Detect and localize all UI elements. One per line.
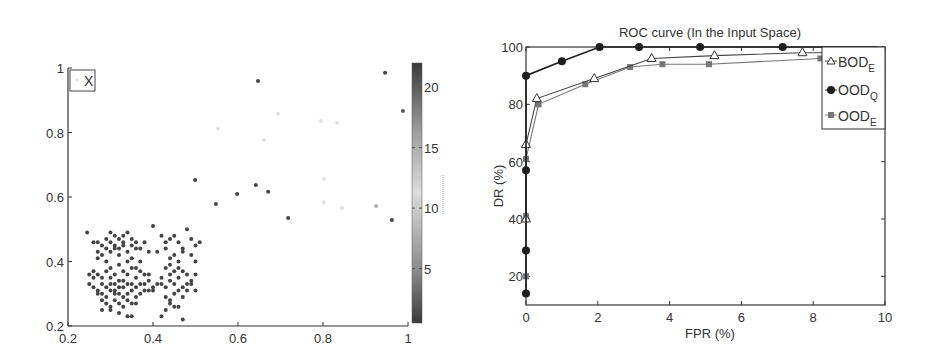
y-tick-label: 0.8: [46, 126, 64, 141]
scatter-point: [177, 266, 181, 270]
legend-marker-x: [76, 79, 78, 81]
scatter-point: [168, 256, 172, 260]
scatter-point: [109, 240, 113, 244]
scatter-point: [109, 289, 113, 293]
scatter-point: [164, 285, 168, 289]
scatter-point: [104, 247, 108, 251]
data-point: [558, 57, 566, 65]
scatter-point: [194, 272, 198, 276]
scatter-point: [134, 276, 138, 280]
scatter-point: [177, 276, 181, 280]
scatter-point: [138, 260, 142, 264]
scatter-point: [335, 121, 339, 125]
scatter-point: [92, 276, 96, 280]
scatter-point: [130, 256, 134, 260]
scatter-point: [121, 295, 125, 299]
scatter-point: [126, 260, 130, 264]
data-point: [710, 51, 719, 59]
x-tick-label: 4: [666, 310, 673, 325]
roc-chart: ROC curve (In the Input Space) 0246810 2…: [465, 0, 930, 364]
scatter-point: [109, 308, 113, 312]
scatter-legend: X: [70, 70, 95, 91]
legend-label-x: X: [84, 73, 94, 89]
scatter-point: [185, 227, 189, 231]
scatter-point: [143, 282, 147, 286]
scatter-point: [322, 200, 326, 204]
roc-legend: BODE OODQ OODE: [822, 47, 885, 129]
scatter-point: [117, 311, 121, 315]
scatter-point: [340, 206, 344, 210]
scatter-point: [138, 269, 142, 273]
scatter-point: [92, 269, 96, 273]
scatter-point: [104, 295, 108, 299]
scatter-point: [130, 282, 134, 286]
x-tick-label: 0.6: [229, 331, 247, 346]
scatter-point: [130, 237, 134, 241]
scatter-point: [177, 240, 181, 244]
scatter-point: [256, 79, 260, 83]
scatter-point: [194, 260, 198, 264]
scatter-point: [130, 266, 134, 270]
scatter-point: [96, 256, 100, 260]
y-tick-label: 80: [509, 97, 523, 112]
scatter-point: [155, 282, 159, 286]
scatter-point: [126, 298, 130, 302]
scatter-point: [113, 272, 117, 276]
scatter-point: [109, 250, 113, 254]
scatter-point: [134, 295, 138, 299]
scatter-point: [117, 253, 121, 257]
scatter-point: [130, 243, 134, 247]
scatter-point: [172, 269, 176, 273]
scatter-point: [117, 292, 121, 296]
scatter-point: [143, 272, 147, 276]
scatter-point: [121, 305, 125, 309]
scatter-point: [126, 250, 130, 254]
scatter-chart: 0.20.40.60.81 0.20.40.60.81 X 5101520: [0, 0, 465, 364]
scatter-point: [121, 269, 125, 273]
scatter-point: [134, 285, 138, 289]
scatter-point: [276, 112, 280, 116]
scatter-point: [322, 177, 326, 181]
scatter-point: [235, 192, 239, 196]
data-point: [659, 61, 665, 67]
scatter-point: [109, 282, 113, 286]
scatter-point: [100, 308, 104, 312]
scatter-point: [164, 308, 168, 312]
scatter-point: [147, 272, 151, 276]
data-point: [635, 43, 643, 51]
scatter-point: [266, 190, 270, 194]
scatter-point: [121, 243, 125, 247]
scatter-point: [134, 301, 138, 305]
data-point: [696, 43, 704, 51]
scatter-point: [177, 289, 181, 293]
scatter-point: [198, 240, 202, 244]
scatter-point: [214, 202, 218, 206]
scatter-point: [100, 298, 104, 302]
scatter-point: [160, 282, 164, 286]
scatter-point: [193, 178, 197, 182]
scatter-point: [168, 263, 172, 267]
scatter-point: [134, 266, 138, 270]
data-point: [706, 61, 712, 67]
scatter-point: [168, 237, 172, 241]
scatter-point: [126, 282, 130, 286]
scatter-point: [383, 71, 387, 75]
scatter-point: [117, 279, 121, 283]
x-tick-label: 0: [522, 310, 529, 325]
scatter-point: [117, 263, 121, 267]
scatter-point: [134, 247, 138, 251]
y-tick-label: 0.6: [46, 190, 64, 205]
scatter-point: [138, 282, 142, 286]
scatter-point: [155, 250, 159, 254]
scatter-point: [185, 289, 189, 293]
scatter-point: [147, 279, 151, 283]
y-tick-label: 40: [509, 212, 523, 227]
x-tick-label: 2: [594, 310, 601, 325]
y-tick-label: 20: [509, 269, 523, 284]
scatter-point: [96, 272, 100, 276]
scatter-point: [254, 183, 258, 187]
scatter-point: [147, 250, 151, 254]
scatter-point: [168, 279, 172, 283]
scatter-point: [104, 260, 108, 264]
scatter-point: [319, 119, 323, 123]
